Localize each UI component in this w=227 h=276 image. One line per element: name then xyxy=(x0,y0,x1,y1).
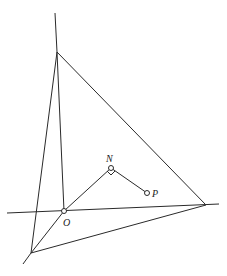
point-o xyxy=(62,209,67,214)
edge-apex-o xyxy=(57,52,64,211)
point-n xyxy=(109,166,114,171)
segment-n-p xyxy=(111,168,147,193)
point-p xyxy=(145,191,150,196)
label-o: O xyxy=(63,217,70,228)
label-p: P xyxy=(151,188,158,199)
horizontal-axis-line xyxy=(7,204,219,213)
vertical-axis-line xyxy=(55,13,57,52)
edge-bottom-right xyxy=(31,205,206,253)
line-c-extension xyxy=(23,253,31,264)
right-angle-marker xyxy=(107,171,115,175)
edge-apex-bottom xyxy=(31,52,57,253)
label-n: N xyxy=(105,153,114,164)
segment-o-n xyxy=(64,168,111,211)
geometry-diagram: O N P xyxy=(0,0,227,276)
